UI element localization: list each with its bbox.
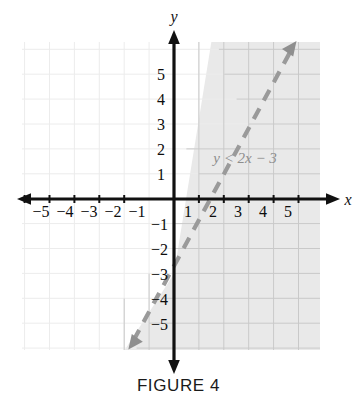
x-tick-label: 1 bbox=[184, 203, 192, 220]
y-axis-label: y bbox=[168, 8, 178, 26]
y-tick-label: −3 bbox=[151, 266, 168, 283]
y-tick-label: 2 bbox=[157, 141, 165, 158]
y-tick-label: 3 bbox=[157, 116, 165, 133]
y-axis-arrow-up bbox=[168, 30, 180, 44]
y-tick-labels-positive: 5 4 3 2 1 bbox=[157, 66, 165, 183]
x-tick-label: 2 bbox=[209, 203, 217, 220]
inequality-annotation: y < 2x − 3 bbox=[211, 150, 277, 166]
figure-caption: FIGURE 4 bbox=[137, 376, 220, 396]
coordinate-plane-chart: y x −5 −4 −3 −2 −1 1 2 3 4 5 5 4 3 2 1 −… bbox=[0, 0, 357, 410]
y-tick-labels-negative: −1 −2 −3 −4 −5 bbox=[151, 216, 168, 333]
x-axis-arrow-right bbox=[326, 193, 340, 205]
figure-container: y x −5 −4 −3 −2 −1 1 2 3 4 5 5 4 3 2 1 −… bbox=[0, 0, 357, 410]
x-tick-label: −2 bbox=[104, 203, 121, 220]
y-tick-label: 4 bbox=[157, 91, 165, 108]
y-tick-label: 1 bbox=[157, 166, 165, 183]
x-tick-label: 3 bbox=[234, 203, 242, 220]
y-tick-label: −1 bbox=[151, 216, 168, 233]
x-tick-label: −3 bbox=[80, 203, 97, 220]
x-tick-label: −4 bbox=[56, 203, 73, 220]
x-tick-label: 4 bbox=[259, 203, 267, 220]
y-tick-label: −5 bbox=[151, 316, 168, 333]
y-tick-label: 5 bbox=[157, 66, 165, 83]
x-tick-labels-negative: −5 −4 −3 −2 −1 bbox=[32, 203, 145, 220]
x-tick-label: −5 bbox=[32, 203, 49, 220]
x-axis-label: x bbox=[343, 191, 351, 208]
x-tick-label: −1 bbox=[128, 203, 145, 220]
y-axis-arrow-down bbox=[168, 360, 180, 374]
y-tick-label: −4 bbox=[151, 291, 168, 308]
figure-caption-wrap: FIGURE 4 bbox=[0, 376, 357, 396]
y-tick-label: −2 bbox=[151, 241, 168, 258]
x-tick-label: 5 bbox=[284, 203, 292, 220]
